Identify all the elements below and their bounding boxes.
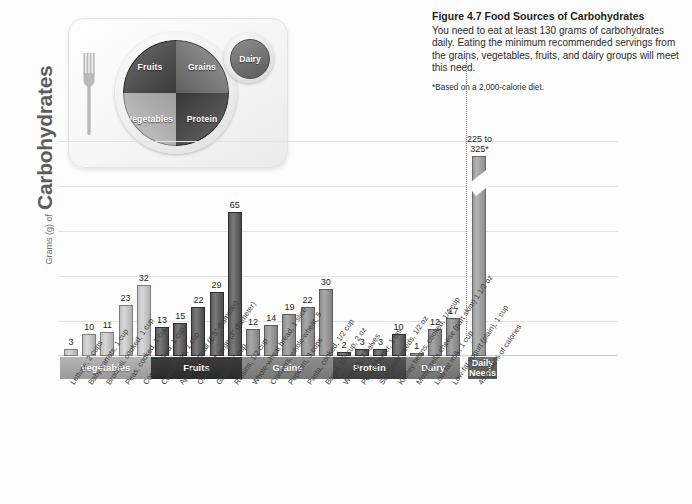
figure-number: Figure 4.7 xyxy=(432,10,482,22)
figure-caption: Figure 4.7 Food Sources of Carbohydrates… xyxy=(432,10,684,93)
bar-value-label: 29 xyxy=(212,280,222,290)
bar-value-label: 23 xyxy=(121,293,131,303)
y-axis-title-small: Grams (g) of xyxy=(44,214,54,265)
bar-value-label: 19 xyxy=(284,302,294,312)
plate-label-grains: Grains xyxy=(188,62,216,72)
x-axis-tick-labels: Lettuce, 2 cupsBaby carrots, 1 cupBrocco… xyxy=(58,382,658,502)
bar[interactable] xyxy=(64,349,78,356)
caption-title: Figure 4.7 Food Sources of Carbohydrates xyxy=(432,10,684,23)
bar-value-label: 32 xyxy=(139,273,149,283)
dairy-cup: Dairy xyxy=(224,33,274,83)
y-axis-title-big: Carbohydrates xyxy=(33,66,57,210)
dairy-cup-fill: Dairy xyxy=(230,39,270,79)
plot-area: 3101123321315222965121419223023310112172… xyxy=(58,96,618,356)
figure-title: Food Sources of Carbohydrates xyxy=(485,10,645,22)
plate-section-fruits: Fruits xyxy=(123,40,176,93)
bar-value-label: 11 xyxy=(103,320,112,330)
bar-value-label: 225 to325* xyxy=(467,134,492,154)
bar-value-label: 65 xyxy=(230,200,240,210)
bar-value-label: 15 xyxy=(175,311,185,321)
plate-section-grains: Grains xyxy=(176,40,229,93)
bar-value-label: 30 xyxy=(321,277,331,287)
bar-value-label: 3 xyxy=(68,337,73,347)
figure-root: Figure 4.7 Food Sources of Carbohydrates… xyxy=(0,0,692,504)
bar-value-label: 10 xyxy=(84,322,94,332)
plate-label-dairy: Dairy xyxy=(239,54,260,64)
plate-label-fruits: Fruits xyxy=(138,62,163,72)
bar-value-label: 22 xyxy=(193,295,203,305)
caption-footnote: *Based on a 2,000-calorie diet. xyxy=(432,82,684,93)
bar-value-label: 22 xyxy=(303,295,313,305)
bar-value-label: 12 xyxy=(248,317,258,327)
bar-value-label: 14 xyxy=(266,313,276,323)
bar-series: 3101123321315222965121419223023310112172… xyxy=(58,96,618,356)
y-axis-title: Grams (g) of Carbohydrates xyxy=(33,45,59,285)
caption-body: You need to eat at least 130 grams of ca… xyxy=(432,25,684,75)
